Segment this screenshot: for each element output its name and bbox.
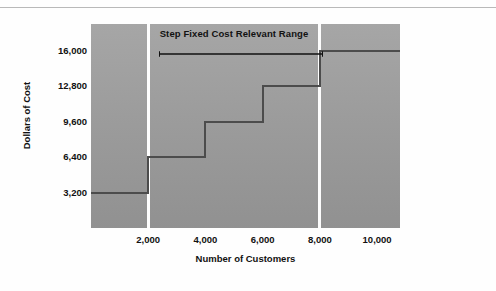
relevant-range-label: Step Fixed Cost Relevant Range <box>159 28 309 39</box>
x-axis-title: Number of Customers <box>91 253 400 264</box>
band-divider-2000 <box>147 24 150 228</box>
y-tick-16000: 16,000 <box>37 45 87 56</box>
double-headed-arrow-icon <box>159 48 323 60</box>
step-tread-9600 <box>205 121 262 123</box>
y-tick-12800: 12,800 <box>37 80 87 91</box>
y-tick-9600: 9,600 <box>37 116 87 127</box>
x-tick-4000: 4,000 <box>175 234 235 245</box>
y-axis-tick-labels: 3,2006,4009,60012,80016,000 <box>36 0 87 291</box>
step-riser-12800 <box>262 85 264 122</box>
x-tick-8000: 8,000 <box>290 234 350 245</box>
x-tick-2000: 2,000 <box>118 234 178 245</box>
y-tick-6400: 6,400 <box>37 151 87 162</box>
step-riser-9600 <box>204 121 206 158</box>
y-tick-3200: 3,200 <box>37 187 87 198</box>
step-riser-6400 <box>147 156 149 193</box>
step-tread-6400 <box>148 156 205 158</box>
step-tread-12800 <box>263 85 320 87</box>
x-tick-10000: 10,000 <box>347 234 407 245</box>
x-tick-6000: 6,000 <box>233 234 293 245</box>
figure-root: Step Fixed Cost Relevant Range 3,2006,40… <box>0 0 496 291</box>
step-tread-3200 <box>91 192 148 194</box>
y-axis-title: Dollars of Cost <box>21 61 32 171</box>
relevant-range-annotation: Step Fixed Cost Relevant Range <box>159 28 309 68</box>
step-tread-16000 <box>320 50 400 52</box>
